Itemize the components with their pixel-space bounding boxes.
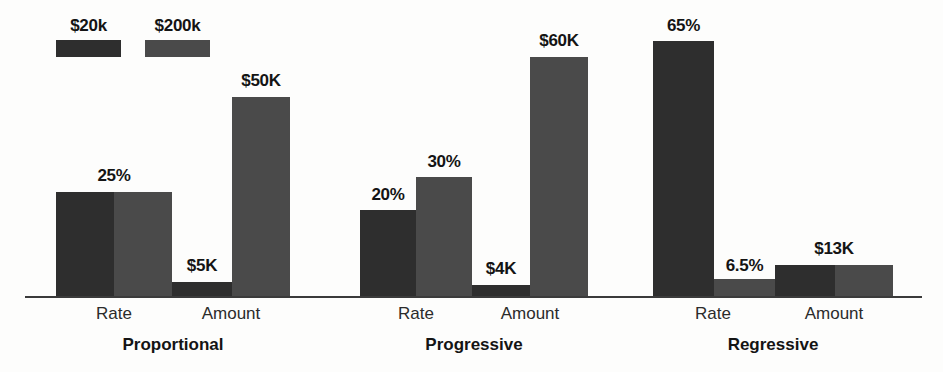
bar-label-progressive-rate-20k: 20% [358,185,418,205]
tick-label-progressive-amount: Amount [472,304,588,324]
bar-progressive-amount-20k [472,285,530,296]
plot-area: 25% $5K $50K Rate Amount Proportional 20… [0,0,943,372]
bar-regressive-amount-20k [775,265,835,296]
bar-label-progressive-amount-200k: $60K [529,31,589,51]
bar-label-regressive-rate-20k: 65% [653,16,714,36]
bar-label-regressive-amount: $13K [804,239,864,259]
tick-label-progressive-rate: Rate [386,304,446,324]
bar-proportional-rate-20k [56,192,114,296]
group-label-progressive: Progressive [360,335,588,355]
bar-progressive-amount-200k [530,57,588,296]
bar-label-proportional-amount-20k: $5K [172,256,232,276]
bar-regressive-rate-20k [653,41,714,296]
bar-label-regressive-rate-200k: 6.5% [714,256,775,276]
bar-progressive-rate-200k [416,177,472,296]
x-axis-line [25,296,922,298]
group-label-proportional: Proportional [56,335,290,355]
bar-progressive-rate-20k [360,210,416,296]
tick-label-proportional-rate: Rate [84,304,144,324]
bar-label-proportional-rate: 25% [84,166,144,186]
tax-structure-bar-chart: $20k $200k 25% $5K $50K Rate Amount Prop… [0,0,943,372]
bar-label-progressive-amount-20k: $4K [471,259,531,279]
bar-label-progressive-rate-200k: 30% [414,152,474,172]
bar-regressive-rate-200k [714,279,775,296]
tick-label-regressive-rate: Rate [683,304,743,324]
tick-label-proportional-amount: Amount [172,304,290,324]
bar-proportional-amount-200k [232,97,290,296]
bar-regressive-amount-200k [835,265,893,296]
tick-label-regressive-amount: Amount [775,304,893,324]
bar-label-proportional-amount-200k: $50K [231,71,291,91]
group-label-regressive: Regressive [653,335,893,355]
bar-proportional-amount-20k [172,282,232,296]
bar-proportional-rate-200k [114,192,172,296]
